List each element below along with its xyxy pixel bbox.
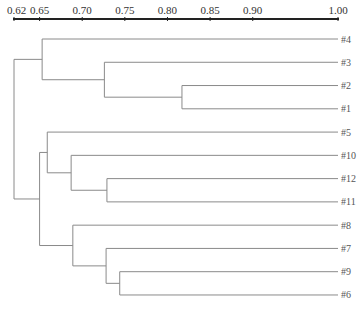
axis-tick-label: 0.65: [30, 4, 50, 16]
leaf-label: #5: [341, 127, 351, 138]
similarity-axis: 0.620.650.700.750.800.850.901.00: [7, 4, 348, 21]
axis-tick-label: 0.85: [200, 4, 220, 16]
leaf-label: #9: [341, 266, 351, 277]
leaf-label: #1: [341, 103, 351, 114]
leaf-labels: #4#3#2#1#5#10#12#11#8#7#9#6: [341, 34, 356, 301]
leaf-label: #3: [341, 57, 351, 68]
axis-tick-label: 0.62: [7, 4, 26, 16]
dendrogram-chart: 0.620.650.700.750.800.850.901.00 #4#3#2#…: [0, 0, 361, 309]
leaf-label: #10: [341, 150, 356, 161]
leaf-label: #12: [341, 173, 356, 184]
leaf-label: #2: [341, 80, 351, 91]
leaf-label: #4: [341, 34, 351, 45]
axis-tick-label: 0.80: [158, 4, 178, 16]
dendrogram-branches: [14, 39, 338, 295]
leaf-label: #7: [341, 243, 351, 254]
leaf-label: #11: [341, 196, 356, 207]
leaf-label: #8: [341, 220, 351, 231]
axis-tick-label: 0.70: [73, 4, 93, 16]
axis-tick-label: 0.90: [243, 4, 263, 16]
leaf-label: #6: [341, 289, 351, 300]
axis-tick-label: 1.00: [328, 4, 348, 16]
axis-tick-label: 0.75: [115, 4, 135, 16]
